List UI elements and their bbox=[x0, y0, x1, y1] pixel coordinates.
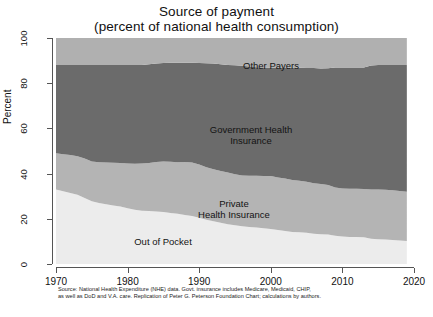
stacked-area-canvas bbox=[56, 38, 414, 264]
area-series-svg bbox=[56, 38, 414, 264]
y-tick-label: 100 bbox=[18, 24, 29, 54]
y-tick-mark bbox=[47, 264, 52, 265]
footnote-line-1: Source: National Health Expenditure (NHE… bbox=[58, 286, 408, 293]
x-tick-mark bbox=[271, 268, 272, 273]
chart-footnote: Source: National Health Expenditure (NHE… bbox=[58, 286, 408, 300]
y-tick-label: 80 bbox=[18, 69, 29, 99]
x-tick-mark bbox=[128, 268, 129, 273]
chart-subtitle: (percent of national health consumption) bbox=[0, 19, 433, 34]
y-tick-mark bbox=[47, 219, 52, 220]
y-axis-title: Percent bbox=[2, 90, 13, 124]
x-tick-mark bbox=[56, 268, 57, 273]
y-tick-mark bbox=[47, 128, 52, 129]
page-title: Source of payment bbox=[0, 4, 433, 19]
chart-title-block: Source of payment (percent of national h… bbox=[0, 4, 433, 34]
y-tick-label: 20 bbox=[18, 204, 29, 234]
x-tick-mark bbox=[199, 268, 200, 273]
plot-area bbox=[56, 38, 414, 264]
y-tick-mark bbox=[47, 174, 52, 175]
x-tick-mark bbox=[414, 268, 415, 273]
y-tick-mark bbox=[47, 38, 52, 39]
footnote-line-2: as well as DoD and V.A. care. Replicatio… bbox=[58, 293, 408, 300]
y-tick-label: 40 bbox=[18, 159, 29, 189]
y-tick-mark bbox=[47, 83, 52, 84]
chart-figure: Source of payment (percent of national h… bbox=[0, 0, 433, 317]
area-band-other-payers bbox=[56, 38, 407, 69]
x-tick-mark bbox=[342, 268, 343, 273]
y-tick-label: 0 bbox=[18, 250, 29, 280]
x-axis-line bbox=[56, 267, 414, 268]
y-tick-label: 60 bbox=[18, 114, 29, 144]
y-axis-line bbox=[52, 38, 53, 264]
